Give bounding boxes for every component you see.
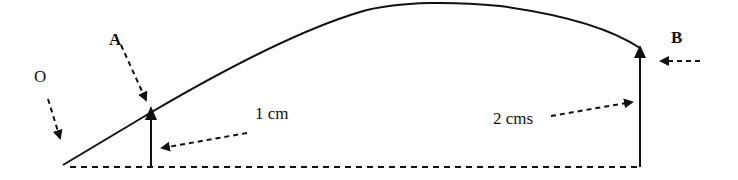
- height-a-pointer-arrow: [162, 133, 247, 148]
- height-b-pointer-arrow: [551, 102, 632, 116]
- label-height-b: 2 cms: [493, 110, 533, 127]
- label-point-b: B: [671, 29, 682, 46]
- label-height-a: 1 cm: [255, 105, 289, 122]
- origin-pointer-arrow: [48, 99, 60, 138]
- arrowhead-up-b: [634, 45, 646, 58]
- trajectory-curve: [63, 3, 640, 165]
- arrowhead-up-a: [145, 106, 157, 120]
- diagram-canvas: O A 1 cm 2 cms B: [0, 0, 738, 180]
- diagram-drawing: [0, 0, 738, 180]
- point-a-pointer-arrow: [121, 45, 146, 100]
- label-point-a: A: [109, 31, 121, 48]
- label-origin: O: [34, 68, 46, 85]
